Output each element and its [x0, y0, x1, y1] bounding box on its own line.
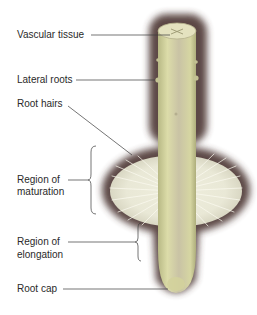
- label-lateral-roots: Lateral roots: [17, 74, 73, 86]
- brace-elongation: [135, 223, 141, 261]
- label-region-of-maturation-line1: Region of: [17, 174, 60, 186]
- brace-maturation: [88, 146, 96, 214]
- label-vascular-tissue: Vascular tissue: [17, 29, 84, 41]
- root-body: [155, 23, 198, 293]
- label-root-hairs: Root hairs: [17, 98, 63, 110]
- lateral-root-bump: [194, 60, 198, 64]
- label-region-of-elongation-line2: elongation: [17, 249, 63, 261]
- root-tip-illustration: [0, 0, 257, 315]
- lateral-root-bump: [155, 77, 160, 82]
- label-region-of-maturation-line2: maturation: [17, 186, 64, 198]
- root-cap: [167, 277, 185, 291]
- lateral-root-bump: [156, 58, 160, 62]
- lateral-root-bump: [193, 75, 198, 80]
- leader-root-hairs: [68, 106, 132, 155]
- vascular-tissue-top: [158, 23, 196, 39]
- label-root-cap: Root cap: [17, 283, 57, 295]
- label-region-of-elongation-line1: Region of: [17, 236, 60, 248]
